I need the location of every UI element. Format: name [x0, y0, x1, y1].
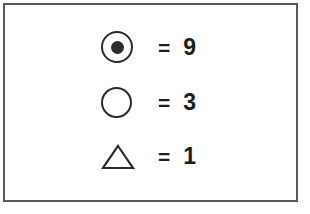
bullseye-circle-with-dot-icon	[97, 27, 141, 67]
legend-row-list: = 9 = 3 = 1	[5, 5, 296, 200]
hollow-circle-icon	[97, 82, 141, 122]
equals-sign: =	[158, 146, 170, 167]
circle-outline	[101, 87, 132, 118]
legend-value: 9	[183, 36, 196, 59]
legend-row: = 3	[97, 82, 196, 122]
bullseye-center-dot	[111, 41, 124, 54]
hollow-triangle-icon	[97, 136, 141, 176]
triangle-outline	[100, 143, 136, 171]
legend-panel: = 9 = 3 = 1	[3, 3, 298, 202]
equals-sign: =	[158, 37, 170, 58]
legend-row: = 1	[97, 136, 196, 176]
legend-row: = 9	[97, 27, 196, 67]
legend-value: 3	[183, 91, 196, 114]
equals-sign: =	[158, 92, 170, 113]
legend-value: 1	[183, 145, 196, 168]
